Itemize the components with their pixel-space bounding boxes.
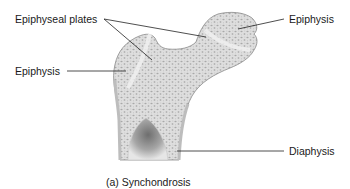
label-epiphyseal-plates: Epiphyseal plates [15,13,97,25]
label-diaphysis: Diaphysis [289,145,335,157]
bone-diagram [0,0,350,189]
label-epiphysis-right: Epiphysis [289,13,334,25]
leader-epiphyseal-plate-right [104,19,206,37]
label-epiphysis-left: Epiphysis [15,65,60,77]
figure-caption: (a) Synchondrosis [106,176,191,188]
